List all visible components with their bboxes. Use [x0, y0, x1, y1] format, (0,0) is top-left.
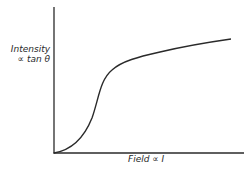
y-axis-label: Intensity ∝ tan θ [11, 44, 50, 64]
x-axis-label: Field ∝ I [128, 154, 164, 164]
y-axis-label-line2: ∝ tan θ [11, 54, 50, 64]
intensity-curve [54, 39, 231, 153]
chart-canvas [0, 0, 251, 173]
y-axis-label-line1: Intensity [11, 44, 50, 54]
